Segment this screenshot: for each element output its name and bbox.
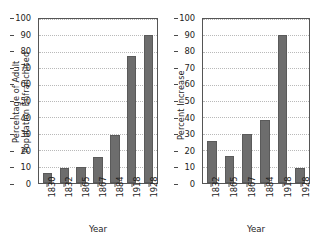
bar-slot — [221, 19, 239, 183]
y-tick-mark — [10, 118, 14, 119]
y-tick-mark — [174, 35, 178, 36]
y-tick-mark — [174, 118, 178, 119]
y-tick-mark — [174, 134, 178, 135]
x-tick-label: 1928 — [301, 177, 311, 198]
y-tick-mark — [10, 68, 14, 69]
x-axis-ticks: 183218651867188419181928 — [202, 184, 310, 218]
x-tick-label: 1928 — [149, 177, 159, 198]
x-tick-slot: 1867 — [238, 184, 256, 218]
y-tick-mark — [10, 18, 14, 19]
bar-series — [39, 19, 157, 183]
x-tick-slot: 1865 — [72, 184, 89, 218]
bar — [260, 120, 270, 183]
x-axis-title: Year — [38, 224, 158, 234]
chart-left-percentage-enfranchised: Percentage of Adult Population Enfranchi… — [0, 0, 172, 246]
bar-slot — [291, 19, 309, 183]
y-tick-mark — [10, 134, 14, 135]
plot-area-wrapper: 0102030405060708090100 18301832186518671… — [38, 18, 158, 184]
y-tick-mark — [174, 151, 178, 152]
y-tick-mark — [174, 101, 178, 102]
bar-slot — [123, 19, 140, 183]
x-axis-title: Year — [202, 224, 310, 234]
bar-slot — [140, 19, 157, 183]
y-axis-ticks: 0102030405060708090100 — [14, 18, 36, 184]
y-tick-mark — [10, 151, 14, 152]
bar-slot — [39, 19, 56, 183]
x-tick-slot: 1832 — [202, 184, 220, 218]
y-tick-mark — [10, 51, 14, 52]
x-tick-slot: 1830 — [38, 184, 55, 218]
bar-slot — [238, 19, 256, 183]
x-tick-slot: 1832 — [55, 184, 72, 218]
y-axis-ticks: 0102030405060708090100 — [178, 18, 200, 184]
plot-frame — [38, 18, 158, 184]
x-tick-slot: 1918 — [124, 184, 141, 218]
plot-frame — [202, 18, 310, 184]
figure: Percentage of Adult Population Enfranchi… — [0, 0, 330, 246]
chart-right-percent-increase: Percent Increase 0102030405060708090100 … — [172, 0, 330, 246]
bar-series — [203, 19, 309, 183]
x-tick-slot: 1867 — [89, 184, 106, 218]
x-tick-slot: 1865 — [220, 184, 238, 218]
y-tick-mark — [174, 167, 178, 168]
x-tick-slot: 1928 — [292, 184, 310, 218]
x-tick-slot: 1928 — [141, 184, 158, 218]
bar-slot — [73, 19, 90, 183]
x-tick-slot: 1884 — [256, 184, 274, 218]
bar-slot — [56, 19, 73, 183]
y-tick-mark — [10, 101, 14, 102]
y-tick-mark — [10, 167, 14, 168]
y-tick-mark — [10, 84, 14, 85]
x-axis-ticks: 1830183218651867188419181928 — [38, 184, 158, 218]
bar-slot — [106, 19, 123, 183]
y-tick-mark — [174, 184, 178, 185]
bar-slot — [256, 19, 274, 183]
y-tick-mark — [10, 35, 14, 36]
y-tick-mark — [10, 184, 14, 185]
plot-area-wrapper: 0102030405060708090100 18321865186718841… — [202, 18, 310, 184]
x-tick-slot: 1884 — [107, 184, 124, 218]
bar-slot — [203, 19, 221, 183]
bar — [278, 35, 288, 183]
bar — [144, 35, 153, 183]
bar-slot — [90, 19, 107, 183]
x-tick-slot: 1918 — [274, 184, 292, 218]
bar-slot — [274, 19, 292, 183]
bar — [127, 56, 136, 183]
y-tick-mark — [174, 84, 178, 85]
y-tick-mark — [174, 18, 178, 19]
y-tick-mark — [174, 68, 178, 69]
y-tick-mark — [174, 51, 178, 52]
